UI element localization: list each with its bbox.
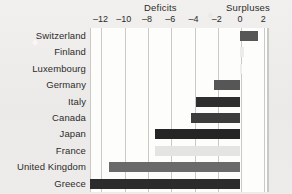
bar-rows: SwitzerlandFinlandLuxembourgGermanyItaly… <box>0 28 292 192</box>
bar-row: Greece <box>0 176 292 192</box>
bar-row: Switzerland <box>0 28 292 44</box>
bar-row: Germany <box>0 77 292 93</box>
category-label: Germany <box>46 79 86 90</box>
x-tick-label: –8 <box>142 14 152 24</box>
x-tick-label: –6 <box>165 14 175 24</box>
bar <box>240 31 257 41</box>
bar <box>155 129 240 139</box>
bar <box>90 179 240 189</box>
category-label: Japan <box>60 128 86 139</box>
category-label: Canada <box>52 112 86 123</box>
category-label: Switzerland <box>36 30 86 41</box>
bar-row: United Kingdom <box>0 159 292 175</box>
x-tick-label: 0 <box>238 14 243 24</box>
x-tick-label: 2 <box>261 14 266 24</box>
category-label: Finland <box>54 46 86 57</box>
bar-row: France <box>0 143 292 159</box>
category-label: Luxembourg <box>32 63 86 74</box>
surpluses-group-label: Surpluses <box>226 2 270 13</box>
bar-row: Italy <box>0 94 292 110</box>
bar <box>196 97 240 107</box>
deficits-surpluses-bar-chart: Deficits Surpluses –12–10–8–6–4–202 Swit… <box>0 0 292 194</box>
x-tick-label: –4 <box>189 14 199 24</box>
x-tick-label: –12 <box>93 14 108 24</box>
category-label: Greece <box>54 178 86 189</box>
bar-row: Japan <box>0 126 292 142</box>
category-label: France <box>56 145 86 156</box>
bar <box>240 47 243 57</box>
bar <box>240 64 242 74</box>
bar <box>109 162 240 172</box>
x-tick-label: –10 <box>116 14 131 24</box>
x-axis-tick-labels: –12–10–8–6–4–202 <box>0 14 292 27</box>
bar <box>155 146 240 156</box>
bar-row: Finland <box>0 44 292 60</box>
x-tick-label: –2 <box>212 14 222 24</box>
bar-row: Canada <box>0 110 292 126</box>
deficits-group-label: Deficits <box>144 2 177 13</box>
bar-row: Luxembourg <box>0 61 292 77</box>
bar <box>214 80 240 90</box>
category-label: Italy <box>68 96 86 107</box>
category-label: United Kingdom <box>17 161 86 172</box>
bar <box>191 113 240 123</box>
